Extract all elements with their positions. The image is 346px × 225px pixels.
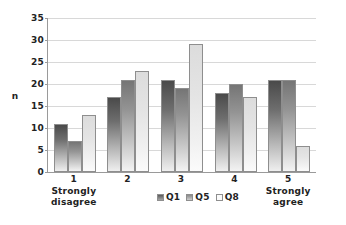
bar: [189, 44, 203, 172]
x-axis-group-label: 5Strongly agree: [249, 174, 327, 208]
legend-item-label: Q5: [195, 192, 209, 202]
bar: [68, 141, 82, 172]
legend-item-label: Q1: [166, 192, 180, 202]
bar: [82, 115, 96, 172]
plot-area: [47, 18, 316, 173]
bar-group: [54, 18, 96, 172]
bar-group: [215, 18, 257, 172]
bar: [296, 146, 310, 172]
legend-item[interactable]: Q5: [186, 192, 209, 202]
bar: [161, 80, 175, 172]
chart-legend: Q1Q5Q8: [157, 192, 239, 202]
bar-group: [107, 18, 149, 172]
legend-item[interactable]: Q8: [216, 192, 239, 202]
y-axis-tick-label: 10: [20, 123, 44, 133]
x-axis-group-sublabel: Strongly disagree: [35, 186, 113, 208]
bar: [121, 80, 135, 172]
legend-swatch-icon: [157, 194, 164, 201]
bar: [107, 97, 121, 172]
bars-layer: [48, 18, 316, 172]
y-axis-tick-mark: [45, 172, 48, 173]
bar: [215, 93, 229, 172]
bar: [54, 124, 68, 172]
bar: [243, 97, 257, 172]
legend-item[interactable]: Q1: [157, 192, 180, 202]
y-axis-tick-labels: 35302520151050: [20, 12, 44, 178]
bar: [282, 80, 296, 172]
legend-swatch-icon: [216, 194, 223, 201]
bar: [135, 71, 149, 172]
bar: [268, 80, 282, 172]
bar-group: [268, 18, 310, 172]
bar: [175, 88, 189, 172]
x-axis-group-number: 5: [249, 174, 327, 185]
x-axis-group-sublabel: Strongly agree: [249, 186, 327, 208]
legend-item-label: Q8: [225, 192, 239, 202]
y-axis-tick-label: 25: [20, 57, 44, 67]
bar-group: [161, 18, 203, 172]
y-axis-tick-label: 15: [20, 101, 44, 111]
y-axis-tick-label: 20: [20, 79, 44, 89]
y-axis-tick-label: 35: [20, 13, 44, 23]
bar: [229, 84, 243, 172]
legend-swatch-icon: [186, 194, 193, 201]
bar-chart: n 35302520151050 1Strongly disagree2345S…: [0, 0, 346, 225]
y-axis-tick-label: 5: [20, 145, 44, 155]
y-axis-tick-label: 30: [20, 35, 44, 45]
